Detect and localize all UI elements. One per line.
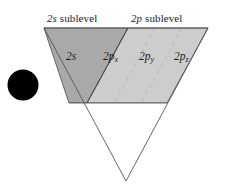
orbital-sublevel-diagram: 2s sublevel 2p sublevel 2s 2px 2py 2pz [0,0,226,190]
2s-sublevel-header-prefix: 2s [47,12,57,24]
2py-orbital-base: 2p [139,50,151,62]
2py-orbital-label: 2py [139,50,154,64]
2px-orbital-base: 2p [103,50,115,62]
unshaded-lower-triangle [69,103,167,181]
nucleus-circle [8,70,39,101]
diagram-canvas [0,0,226,190]
2px-orbital-subscript: x [115,55,119,64]
2s-orbital-label: 2s [66,50,76,62]
2s-sublevel-header-suffix: sublevel [57,12,97,24]
2s-orbital-base: 2s [66,50,76,62]
2p-sublevel-header-label: 2p sublevel [131,12,183,24]
2py-orbital-subscript: y [151,55,155,64]
2p-sublevel-header-suffix: sublevel [142,12,182,24]
2pz-orbital-base: 2p [174,50,186,62]
2p-sublevel-header-prefix: 2p [131,12,142,24]
2s-sublevel-header-label: 2s sublevel [47,12,97,24]
2pz-orbital-label: 2pz [174,50,189,64]
2px-orbital-label: 2px [103,50,118,64]
2pz-orbital-subscript: z [186,55,189,64]
